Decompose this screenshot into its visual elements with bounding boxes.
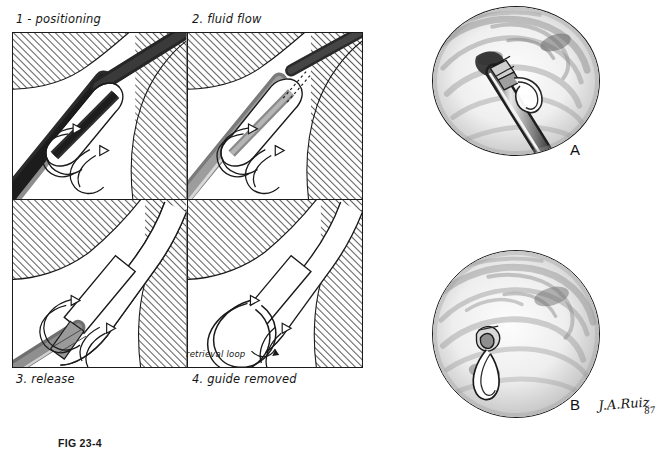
panel-4-guide-removed: [188, 200, 363, 367]
panel-title-3: 3. release: [16, 372, 75, 386]
retrieval-loop-label: retrieval loop: [186, 349, 245, 359]
signature-name: J.A.Ruiz: [598, 394, 650, 413]
figure-caption: FIG 23-4: [58, 437, 102, 449]
endoscopic-view-a: [432, 6, 600, 156]
panel-1-positioning: [13, 33, 188, 200]
scope-label-b: B: [570, 396, 581, 413]
endoscopic-view-b: [432, 250, 600, 418]
signature-year: 87: [643, 405, 656, 416]
scope-label-a: A: [570, 141, 581, 158]
panel-title-4: 4. guide removed: [192, 372, 297, 386]
procedure-panel-grid: [12, 32, 363, 368]
panel-title-1: 1 - positioning: [16, 12, 101, 26]
artist-signature: J.A.Ruiz87: [598, 394, 660, 413]
panel-2-fluid-flow: [188, 33, 363, 200]
panel-3-release: [13, 200, 188, 367]
panel-title-2: 2. fluid flow: [192, 12, 262, 26]
